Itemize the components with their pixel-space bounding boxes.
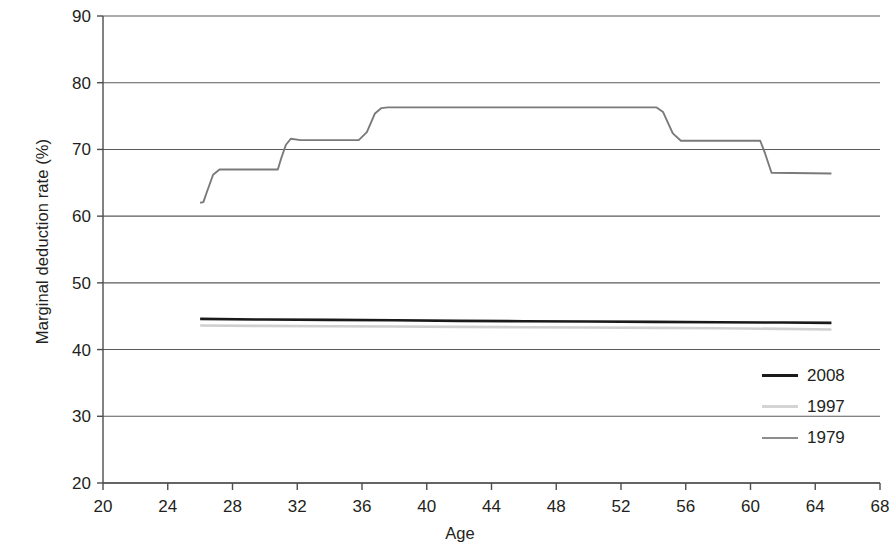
x-tick-label: 48 — [526, 498, 586, 515]
chart-figure: Marginal deduction rate (%) 203040506070… — [0, 0, 890, 560]
x-tick-label: 68 — [850, 498, 890, 515]
x-tick-label: 64 — [785, 498, 845, 515]
legend-label: 1997 — [807, 398, 845, 415]
legend-swatch-line-icon — [762, 374, 798, 377]
x-axis-tick-marks — [103, 483, 880, 490]
legend-item-1997[interactable]: 1997 — [762, 391, 882, 422]
legend-label: 2008 — [807, 367, 845, 384]
legend-label: 1979 — [807, 429, 845, 446]
x-tick-label: 56 — [656, 498, 716, 515]
x-tick-label: 28 — [203, 498, 263, 515]
x-tick-label: 52 — [591, 498, 651, 515]
y-tick-label: 40 — [31, 342, 91, 359]
y-tick-label: 50 — [31, 275, 91, 292]
x-tick-label: 24 — [138, 498, 198, 515]
x-tick-label: 36 — [332, 498, 392, 515]
y-tick-label: 90 — [31, 8, 91, 25]
legend-item-1979[interactable]: 1979 — [762, 422, 882, 453]
series-line-1997 — [200, 326, 831, 330]
x-tick-label: 60 — [721, 498, 781, 515]
series-line-2008 — [200, 319, 831, 323]
legend-swatch-line-icon — [762, 405, 798, 408]
x-tick-label: 32 — [267, 498, 327, 515]
x-axis-title: Age — [0, 524, 890, 543]
y-tick-label: 70 — [31, 141, 91, 158]
legend-item-2008[interactable]: 2008 — [762, 360, 882, 391]
x-tick-label: 40 — [397, 498, 457, 515]
data-series-layer — [200, 107, 831, 329]
y-tick-label: 30 — [31, 408, 91, 425]
x-tick-label: 44 — [462, 498, 522, 515]
legend-swatch-line-icon — [762, 437, 798, 439]
y-tick-label: 80 — [31, 75, 91, 92]
y-tick-label: 60 — [31, 208, 91, 225]
x-axis-title-text: Age — [445, 524, 474, 543]
chart-legend: 200819971979 — [762, 360, 882, 453]
y-axis-tick-marks — [97, 16, 103, 483]
series-line-1979 — [200, 107, 831, 202]
x-tick-label: 20 — [73, 498, 133, 515]
y-tick-label: 20 — [31, 475, 91, 492]
